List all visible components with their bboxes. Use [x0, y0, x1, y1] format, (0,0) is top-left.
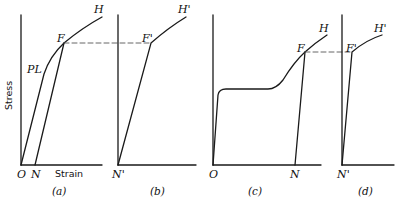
panel-d-plot: [342, 15, 394, 165]
panel-a-ylabel: Stress: [4, 81, 14, 110]
panel-a-label-f: F: [57, 33, 65, 44]
panel-b-label-origin: N': [112, 169, 125, 180]
panel-c-plot: [213, 15, 327, 165]
panel-c-unload-line: [295, 52, 305, 165]
panel-a-label-origin: O: [17, 169, 26, 180]
panel-a-label-n: N: [31, 169, 41, 180]
panel-c-caption: (c): [248, 186, 262, 197]
panel-c-label-origin: O: [209, 169, 218, 180]
panel-d-label-h: H': [374, 23, 387, 34]
panel-c-label-f: F: [297, 43, 305, 54]
panel-a-xlabel: Strain: [55, 169, 83, 179]
panel-a-caption: (a): [52, 186, 66, 197]
panel-d-label-f: F': [346, 43, 357, 54]
panel-c-stress-curve: [213, 35, 327, 165]
panel-b-label-f: F': [142, 33, 153, 44]
panel-c-label-h: H: [319, 23, 329, 34]
panel-a-label-pl: PL: [27, 64, 42, 75]
panel-a-label-h: H: [94, 4, 104, 15]
panel-c-label-n: N: [290, 169, 300, 180]
panel-d-label-origin: N': [337, 169, 350, 180]
panel-b-caption: (b): [150, 186, 165, 197]
panel-b-label-h: H': [178, 4, 191, 15]
panel-b-plot: [118, 15, 196, 165]
panel-d-caption: (d): [358, 186, 373, 197]
